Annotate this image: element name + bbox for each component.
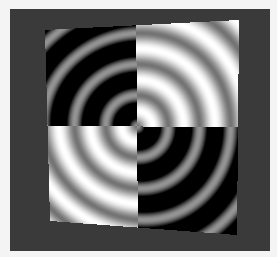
image-stage bbox=[0, 0, 277, 257]
concentric-ring-quadrant-pattern bbox=[0, 0, 277, 257]
